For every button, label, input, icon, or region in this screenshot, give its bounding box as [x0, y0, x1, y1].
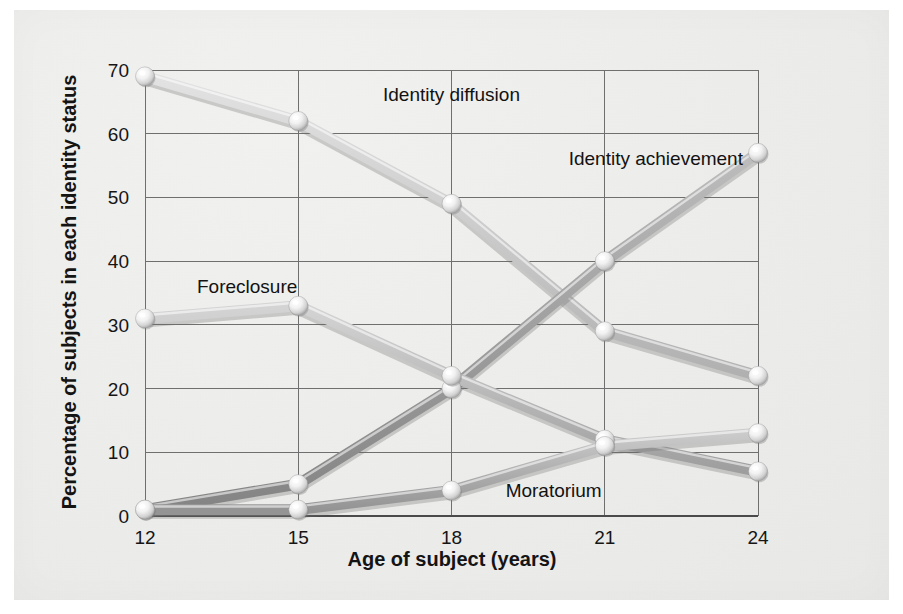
x-tick-label: 24	[747, 527, 769, 548]
line-chart: 010203040506070 1215182124 Identity diff…	[0, 0, 903, 614]
data-point-marker[interactable]	[442, 366, 461, 385]
y-tick-label: 10	[108, 442, 129, 463]
data-point-marker[interactable]	[442, 194, 461, 213]
series-label-identity-achievement: Identity achievement	[569, 148, 744, 169]
data-point-marker[interactable]	[136, 309, 155, 328]
data-point-marker[interactable]	[595, 252, 614, 271]
data-point-marker[interactable]	[136, 500, 155, 519]
data-point-marker[interactable]	[595, 436, 614, 455]
x-tick-label: 12	[134, 527, 155, 548]
x-axis-tick-labels: 1215182124	[134, 527, 769, 548]
series-label-foreclosure: Foreclosure	[197, 276, 297, 297]
data-point-specular-highlight	[446, 370, 452, 375]
data-point-marker[interactable]	[595, 322, 614, 341]
figure-container: 010203040506070 1215182124 Identity diff…	[0, 0, 903, 614]
data-point-marker[interactable]	[749, 366, 768, 385]
y-tick-label: 40	[108, 251, 129, 272]
data-point-specular-highlight	[139, 313, 145, 318]
data-point-marker[interactable]	[749, 424, 768, 443]
y-tick-label: 20	[108, 379, 129, 400]
data-point-marker[interactable]	[749, 143, 768, 162]
data-point-specular-highlight	[599, 256, 605, 261]
data-point-specular-highlight	[752, 428, 758, 433]
y-tick-label: 0	[118, 506, 129, 527]
data-point-marker[interactable]	[749, 462, 768, 481]
data-point-marker[interactable]	[289, 296, 308, 315]
data-point-specular-highlight	[599, 326, 605, 331]
data-point-specular-highlight	[599, 440, 605, 445]
y-tick-label: 60	[108, 124, 129, 145]
data-point-specular-highlight	[293, 504, 299, 509]
data-point-marker[interactable]	[289, 475, 308, 494]
data-point-specular-highlight	[752, 466, 758, 471]
data-point-specular-highlight	[446, 485, 452, 490]
data-point-marker[interactable]	[289, 500, 308, 519]
y-tick-label: 50	[108, 187, 129, 208]
x-axis-title: Age of subject (years)	[348, 548, 557, 570]
data-point-specular-highlight	[293, 479, 299, 484]
data-point-specular-highlight	[752, 147, 758, 152]
series-label-moratorium: Moratorium	[506, 480, 602, 501]
x-tick-label: 18	[441, 527, 462, 548]
data-point-specular-highlight	[752, 370, 758, 375]
y-axis-tick-labels: 010203040506070	[108, 60, 129, 527]
data-point-specular-highlight	[139, 504, 145, 509]
x-tick-label: 21	[594, 527, 615, 548]
x-tick-label: 15	[288, 527, 309, 548]
data-point-marker[interactable]	[136, 67, 155, 86]
data-point-specular-highlight	[293, 115, 299, 120]
data-point-specular-highlight	[446, 198, 452, 203]
y-tick-label: 70	[108, 60, 129, 81]
series-label-identity-diffusion: Identity diffusion	[383, 84, 520, 105]
data-point-specular-highlight	[293, 300, 299, 305]
data-point-marker[interactable]	[442, 481, 461, 500]
y-tick-label: 30	[108, 315, 129, 336]
data-point-specular-highlight	[139, 71, 145, 76]
y-axis-title: Percentage of subjects in each identity …	[58, 75, 80, 510]
data-point-marker[interactable]	[289, 111, 308, 130]
